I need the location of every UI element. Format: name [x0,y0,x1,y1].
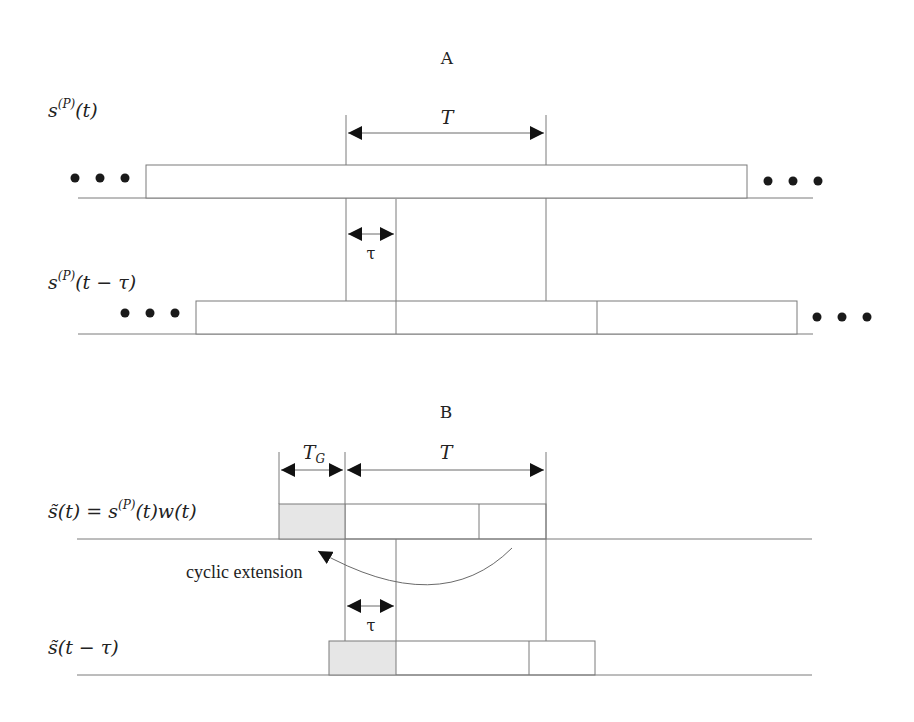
leading-ellipsis-icon [71,174,130,183]
section-a-title: A [440,48,454,68]
cyclic-extension-arrow: cyclic extension [186,548,512,585]
ofdm-cyclic-extension-diagram: A T s(P)(t) [0,0,914,722]
symbol-block [196,301,797,334]
trailing-ellipsis-icon [813,313,872,322]
period-t-label: T [440,441,454,463]
symbol-block [146,165,747,198]
signal-s-p-t-minus-tau-label: s(P)(t − τ) [48,269,136,293]
signal-s-p-t-label: s(P)(t) [48,97,98,121]
period-t-label: T [441,106,455,128]
delay-tau-arrow: τ [347,606,394,635]
guard-interval-arrow: TG [281,441,343,470]
guard-interval-label: TG [303,441,326,466]
signal-s-tilde-t: s̃(t) = s(P)(t)w(t) [48,498,812,539]
signal-s-tilde-t-minus-tau-label: s̃(t − τ) [48,636,119,658]
signal-s-p-t: s(P)(t) [48,97,823,198]
cyclic-extension-label: cyclic extension [186,562,302,582]
period-t-arrow: T [347,441,544,470]
delay-tau-label: τ [367,244,376,263]
trailing-ellipsis-icon [764,177,823,186]
delay-tau-label: τ [367,616,376,635]
section-b-title: B [440,402,453,422]
section-b: B TG T s̃(t) = s(P)(t)w(t) cyclic e [48,402,812,675]
signal-s-tilde-t-label: s̃(t) = s(P)(t)w(t) [48,498,197,522]
signal-s-p-t-minus-tau: s(P)(t − τ) [48,269,872,334]
section-a: A T s(P)(t) [48,48,872,334]
cyclic-prefix-block [329,641,396,675]
cyclic-prefix-block [279,504,345,539]
delay-tau-arrow: τ [348,234,394,263]
leading-ellipsis-icon [121,309,180,318]
signal-s-tilde-t-minus-tau: s̃(t − τ) [48,636,812,675]
period-t-arrow: T [348,106,544,133]
